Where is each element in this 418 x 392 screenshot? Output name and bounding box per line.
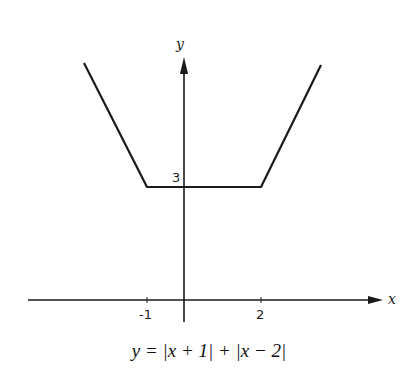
y-axis-label: y [175, 36, 185, 52]
x-tick-label-neg1: -1 [139, 307, 152, 322]
equation-caption: y = |x + 1| + |x − 2| [0, 340, 418, 362]
x-axis-arrow-icon [368, 296, 383, 304]
function-curve [84, 63, 321, 187]
caption-text: y = |x + 1| + |x − 2| [132, 340, 286, 361]
y-axis-arrow-icon [180, 57, 188, 74]
x-axis-label: x [388, 291, 396, 307]
graph-canvas: 3 -1 2 x y [0, 0, 418, 392]
x-tick-label-2: 2 [256, 307, 264, 322]
y-tick-label-3: 3 [172, 170, 180, 185]
